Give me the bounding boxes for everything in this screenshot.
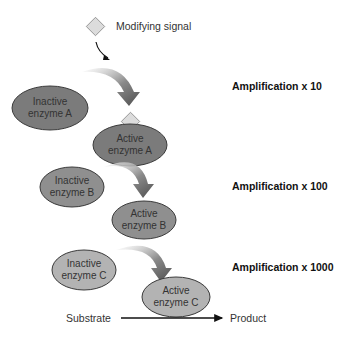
label-line: Inactive (16, 96, 84, 108)
signal-diamond-icon (86, 17, 104, 35)
amplification-label-1000: Amplification x 1000 (232, 261, 334, 273)
active-enzyme-c-label: Active enzyme C (142, 285, 210, 309)
active-enzyme-b-label: Active enzyme B (110, 208, 178, 232)
label-line: Inactive (38, 175, 106, 187)
substrate-label: Substrate (66, 312, 111, 324)
label-line: enzyme C (142, 297, 210, 309)
label-line: Inactive (50, 258, 118, 270)
label-line: Active (142, 285, 210, 297)
label-line: enzyme C (50, 270, 118, 282)
label-line: enzyme A (96, 145, 164, 157)
activation-arrow-c (116, 246, 172, 282)
activation-arrow-b (104, 162, 154, 198)
inactive-enzyme-b-label: Inactive enzyme B (38, 175, 106, 199)
label-line: enzyme A (16, 108, 84, 120)
active-enzyme-a-label: Active enzyme A (96, 133, 164, 157)
amplification-label-100: Amplification x 100 (232, 180, 328, 192)
modifying-signal-label: Modifying signal (116, 20, 191, 32)
label-line: enzyme B (110, 220, 178, 232)
inactive-enzyme-c-label: Inactive enzyme C (50, 258, 118, 282)
label-line: enzyme B (38, 187, 106, 199)
amplification-label-10: Amplification x 10 (232, 80, 322, 92)
product-label: Product (230, 312, 266, 324)
label-line: Active (110, 208, 178, 220)
activation-arrow-a (82, 68, 140, 106)
inactive-enzyme-a-label: Inactive enzyme A (16, 96, 84, 120)
signal-arrow (96, 42, 108, 58)
label-line: Active (96, 133, 164, 145)
